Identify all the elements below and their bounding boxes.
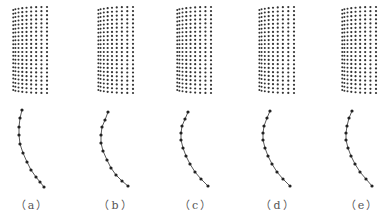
curve-node [275,170,278,173]
panel-label-e: （e） [345,196,380,212]
profile-curve [344,109,373,187]
curve-node [265,116,268,119]
curve-node [179,131,182,134]
curve-node [186,110,189,113]
curve-node [42,185,45,188]
curve-node [261,138,264,141]
curve-node [344,138,347,141]
curve-node [199,177,202,180]
curve-node [120,179,123,182]
curve-node [184,154,187,157]
curve-node [106,110,109,113]
curve-node [109,166,112,169]
curve-node [346,146,349,149]
curve-node [25,160,28,163]
curve-node [17,133,20,136]
curve-node [100,125,103,128]
profile-curve [179,110,209,187]
curve-node [18,116,21,119]
panel-d [258,6,295,188]
curve-node [350,109,353,112]
panel-label-a: （a） [15,196,50,212]
curve-node [181,146,184,149]
curve-node [268,109,271,112]
point-cloud-grid [176,6,212,94]
point-cloud-grid [258,6,295,94]
curve-node [18,142,21,145]
curve-node [270,162,273,165]
figure-canvas [0,0,388,220]
curve-node [347,116,350,119]
curve-node [20,108,23,111]
panel-label-b: （b） [98,196,133,212]
curve-node [261,131,264,134]
curve-node [180,124,183,127]
panel-b [97,6,134,188]
curve-node [99,141,102,144]
point-cloud-grid [97,6,134,94]
panel-c [176,6,212,188]
curve-node [263,146,266,149]
curve-node [364,177,367,180]
curve-node [105,158,108,161]
curve-node [29,168,32,171]
curve-node [344,131,347,134]
curve-node [99,133,102,136]
curve-node [126,184,129,187]
curve-node [114,173,117,176]
curve-node [179,138,182,141]
curve-node [183,117,186,120]
curve-node [262,124,265,127]
curve-node [34,175,37,178]
curve-node [345,124,348,127]
curve-node [188,162,191,165]
curve-node [103,118,106,121]
curve-node [358,170,361,173]
curve-node [288,184,291,187]
curve-node [206,184,209,187]
panel-e [341,6,377,188]
curve-node [266,154,269,157]
profile-curve [17,108,45,188]
curve-node [17,125,20,128]
profile-curve [99,110,129,187]
panel-label-d: （d） [260,196,295,212]
panel-label-c: （c） [179,196,213,212]
curve-node [101,149,104,152]
curve-node [193,170,196,173]
curve-node [349,154,352,157]
point-cloud-grid [341,6,377,94]
point-cloud-grid [12,6,48,94]
curve-node [21,151,24,154]
curve-node [281,177,284,180]
panel-a [12,6,48,189]
curve-node [353,162,356,165]
curve-node [38,180,41,183]
profile-curve [261,109,291,187]
curve-node [370,184,373,187]
